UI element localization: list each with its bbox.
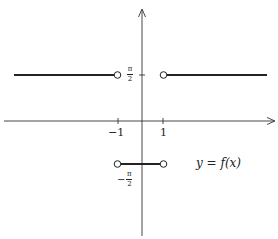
x-tick-label-minus-1: −1 <box>108 127 124 138</box>
fraction: π 2 <box>126 171 132 188</box>
y-tick-label-pi-over-2: π 2 <box>127 66 133 83</box>
open-endpoint-middle-right <box>160 161 167 168</box>
open-endpoint-left <box>114 72 121 79</box>
function-label: y = f(x) <box>196 157 241 169</box>
fraction-numerator: π <box>127 171 132 178</box>
graph-canvas <box>0 0 278 239</box>
fraction-denominator: 2 <box>127 181 131 188</box>
open-endpoint-middle-left <box>114 161 121 168</box>
open-endpoint-right <box>160 72 167 79</box>
y-tick-label-minus-pi-over-2: − π 2 <box>117 171 132 188</box>
minus-sign: − <box>117 175 125 185</box>
fraction-numerator: π <box>128 66 133 73</box>
fraction-denominator: 2 <box>128 76 132 83</box>
x-tick-label-1: 1 <box>160 127 167 138</box>
